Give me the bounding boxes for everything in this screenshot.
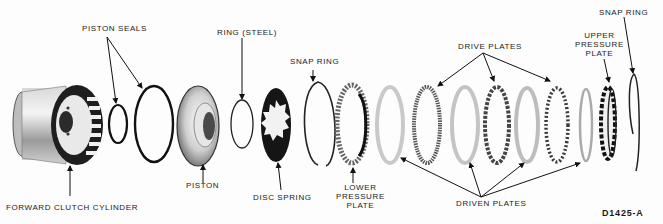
figure-code: D1425-A <box>602 209 644 218</box>
label-piston: PISTON <box>186 181 219 190</box>
label-piston-seals: PISTON SEALS <box>82 24 147 33</box>
label-forward-clutch-cylinder: FORWARD CLUTCH CYLINDER <box>6 203 138 212</box>
parts-illustration <box>0 0 663 224</box>
label-upper-pressure-plate: UPPER PRESSURE PLATE <box>575 31 624 58</box>
label-driven-plates: DRIVEN PLATES <box>456 199 526 208</box>
label-snap-ring-2: SNAP RING <box>599 8 648 17</box>
driven-plate-4 <box>580 89 592 161</box>
driven-plate-1 <box>377 87 403 163</box>
drive-plate-1 <box>414 87 440 163</box>
label-snap-ring-1: SNAP RING <box>290 57 339 66</box>
label-ring-steel: RING (STEEL) <box>217 28 277 37</box>
steel-ring <box>231 100 253 148</box>
driven-plate-3 <box>516 88 538 162</box>
drive-plate-3 <box>546 88 568 162</box>
upper-pressure-plate-part <box>601 87 616 159</box>
piston-seal-large <box>135 86 173 162</box>
piston-seal-small <box>109 105 127 143</box>
label-lower-pressure-plate: LOWER PRESSURE PLATE <box>336 183 385 210</box>
label-disc-spring: DISC SPRING <box>253 193 312 202</box>
exploded-diagram: PISTON SEALS RING (STEEL) SNAP RING DRIV… <box>0 0 663 224</box>
lower-pressure-plate-part <box>337 85 367 163</box>
label-drive-plates: DRIVE PLATES <box>458 42 522 51</box>
piston-part <box>177 86 219 166</box>
disc-spring-part <box>261 88 291 162</box>
snap-ring-1-part <box>304 82 335 166</box>
forward-clutch-cylinder-part <box>13 85 103 165</box>
snap-ring-2-part <box>629 74 639 171</box>
leader-arrows <box>70 17 633 197</box>
driven-plate-2 <box>452 87 478 163</box>
drive-plate-2 <box>485 87 509 163</box>
